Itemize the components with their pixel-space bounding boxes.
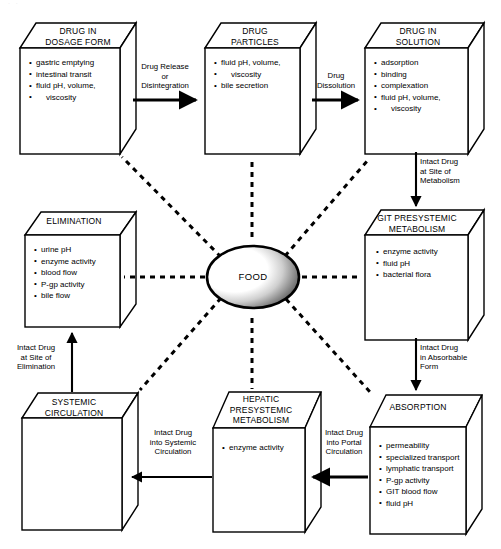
edge-label-line: Drug Release	[129, 62, 201, 72]
dash-food-to-absorption	[286, 299, 370, 392]
list-item: adsorption	[381, 58, 466, 69]
list-item: gastric emptying	[36, 58, 119, 69]
box-items-git-presystemic-metabolism: enzyme activity fluid pH bacterial flora	[374, 247, 466, 282]
list-item-continuation: viscosity	[221, 70, 300, 81]
list-item: specialized transport	[386, 453, 467, 464]
box-items-hepatic-presystemic-metabolism: enzyme activity	[220, 443, 306, 455]
list-item: intestinal transit	[36, 70, 119, 81]
list-item: P-gp activity	[386, 476, 467, 487]
edge-label-line: Dissolution	[310, 81, 362, 91]
diagram-canvas: · ·	[0, 0, 501, 549]
box-items-elimination: urine pH enzyme activity blood flow P-gp…	[32, 245, 118, 303]
edge-label-line: Elimination	[6, 362, 66, 372]
list-item: fluid pH	[386, 499, 467, 510]
edge-label-drug-dissolution: Drug Dissolution	[310, 71, 362, 90]
list-item-continuation: viscosity	[36, 93, 119, 104]
edge-label-line: Intact Drug	[420, 343, 496, 353]
box-systemic-circulation-shape	[22, 393, 138, 530]
box-items-drug-in-solution: adsorption binding complexation fluid pH…	[372, 58, 466, 116]
box-items-drug-particles: fluid pH, volume, viscosity bile secreti…	[212, 58, 300, 93]
list-item: enzyme activity	[41, 257, 118, 268]
list-item: blood flow	[41, 268, 118, 279]
list-item: permeability	[386, 441, 467, 452]
list-item: bile secretion	[221, 81, 300, 92]
box-items-absorption: permeability specialized transport lymph…	[377, 441, 467, 510]
list-item: urine pH	[41, 245, 118, 256]
edge-label-line: Form	[420, 362, 496, 372]
edge-label-line: at Site of	[6, 353, 66, 363]
edge-label-intact-drug-in-absorbable-form: Intact Drug in Absorbable Form	[420, 343, 496, 372]
edge-label-line: or	[129, 72, 201, 82]
edge-label-intact-drug-into-portal-circulation: Intact Drug into Portal Circulation	[313, 428, 375, 457]
list-item: lymphatic transport	[386, 464, 467, 475]
dash-food-to-dosage-form	[122, 157, 221, 257]
list-item: bile flow	[41, 291, 118, 302]
list-item: fluid pH	[383, 259, 466, 270]
list-item: P-gp activity	[41, 280, 118, 291]
list-item: enzyme activity	[383, 247, 466, 258]
edge-label-line: Disintegration	[129, 81, 201, 91]
edge-label-drug-release-or-disintegration: Drug Release or Disintegration	[129, 62, 201, 91]
list-item: GIT blood flow	[386, 487, 467, 498]
list-item: bacterial flora	[383, 270, 466, 281]
edge-label-line: Intact Drug	[420, 157, 492, 167]
list-item: binding	[381, 70, 466, 81]
edge-label-line: Intact Drug	[134, 428, 212, 438]
dash-food-to-systemic	[140, 298, 221, 390]
edge-label-line: in Absorbable	[420, 353, 496, 363]
list-item: fluid pH, volume,	[221, 58, 300, 69]
list-item: enzyme activity	[229, 443, 306, 454]
edge-label-line: Intact Drug	[6, 343, 66, 353]
edge-label-intact-drug-into-systemic-circulation: Intact Drug into Systemic Circulation	[134, 428, 212, 457]
edge-label-intact-drug-at-site-of-metabolism: Intact Drug at Site of Metabolism	[420, 157, 492, 186]
list-item: complexation	[381, 81, 466, 92]
edge-label-line: into Systemic	[134, 438, 212, 448]
list-item: fluid pH, volume,	[381, 93, 466, 104]
edge-label-intact-drug-at-site-of-elimination: Intact Drug at Site of Elimination	[6, 343, 66, 372]
food-node-label: FOOD	[213, 271, 293, 282]
edge-label-line: at Site of	[420, 167, 492, 177]
edge-label-line: into Portal	[313, 438, 375, 448]
dash-food-to-solution	[285, 160, 368, 256]
edge-label-line: Drug	[310, 71, 362, 81]
edge-label-line: Circulation	[313, 447, 375, 457]
edge-label-line: Circulation	[134, 447, 212, 457]
list-item-continuation: viscosity	[381, 104, 466, 115]
edge-label-line: Metabolism	[420, 176, 492, 186]
list-item: fluid pH, volume,	[36, 81, 119, 92]
edge-label-line: Intact Drug	[313, 428, 375, 438]
box-hepatic-presystemic-metabolism-shape	[213, 392, 321, 532]
box-items-drug-in-dosage-form: gastric emptying intestinal transit flui…	[27, 58, 119, 104]
